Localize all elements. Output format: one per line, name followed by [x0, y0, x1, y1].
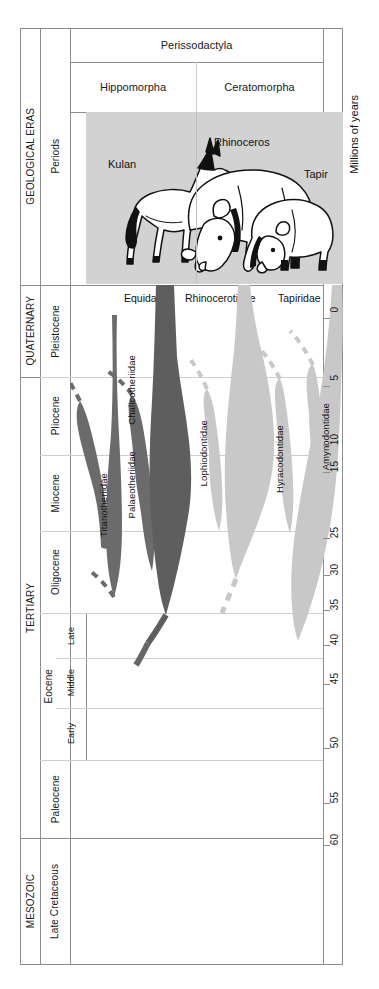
time-axis-tick-5: [323, 386, 330, 387]
time-axis-tick-45: [323, 684, 330, 685]
time-axis-label-30: 30: [330, 564, 340, 575]
time-axis-tick-40: [323, 645, 330, 646]
time-axis-label-25: 25: [330, 527, 340, 538]
era-cell-mesozoic: MESOZOIC: [20, 838, 40, 965]
spindle-equidae: [148, 285, 191, 643]
time-axis-label-35: 35: [330, 599, 340, 610]
spindle-rhinocerotidae: [222, 285, 274, 613]
time-axis-tick-55: [323, 803, 330, 804]
eras-axis-text: GEOLOGICAL ERAS: [25, 108, 36, 205]
era-cell-tertiary: TERTIARY: [20, 377, 40, 838]
perissodactyl-illustration-panel: Kulan Rhinoceros Tapir: [86, 112, 343, 284]
time-axis-tick-60: [323, 845, 330, 846]
clade-label-lophiodontidae: Lophiodontidae: [198, 420, 209, 486]
perissodactyla-phylogeny-figure: Perissodactyla Hippomorpha Ceratomorpha …: [0, 0, 379, 989]
period-cell-pleistocene: Pleistocene: [40, 285, 70, 377]
period-label-miocene: Miocene: [50, 474, 61, 513]
period-label-eocene: Eocene: [43, 669, 54, 704]
period-cell-eocene: Eocene: [40, 613, 56, 760]
clade-label-palaeotheriidae: Palaeotheriidae: [126, 451, 137, 519]
phylogeny-chart-area: Titanotheriidae Chalicotheriidae Palaeot…: [70, 285, 343, 838]
caption-kulan: Kulan: [108, 158, 136, 170]
period-cell-oligocene: Oligocene: [40, 531, 70, 613]
periods-axis-text: Periods: [50, 139, 61, 174]
time-axis-tick-15: [323, 472, 330, 473]
suborder-header-ceratomorpha: Ceratomorpha: [196, 62, 323, 112]
clade-label-chalicotheriidae: Chalicotheriidae: [126, 355, 137, 425]
period-label-late-cretaceous: Late Cretaceous: [49, 864, 61, 939]
period-cell-miocene: Miocene: [40, 455, 70, 531]
period-label-oligocene: Oligocene: [50, 549, 61, 595]
clade-label-titanotheriidae: Titanotheriidae: [98, 473, 109, 537]
period-label-paleocene: Paleocene: [50, 775, 61, 823]
period-label-pliocene: Pliocene: [50, 396, 61, 435]
time-axis-label-40: 40: [330, 634, 340, 645]
time-axis-tick-25: [323, 538, 330, 539]
period-label-pleistocene: Pleistocene: [50, 305, 61, 358]
era-cell-quaternary: QUATERNARY: [20, 285, 40, 377]
time-axis-label-5: 5: [330, 375, 340, 381]
clade-label-hyracodontidae: Hyracodontidae: [274, 425, 285, 493]
periods-axis-label: Periods: [40, 28, 70, 284]
illustration-group-divider: [196, 112, 197, 284]
era-label-mesozoic: MESOZOIC: [25, 874, 36, 928]
time-axis-tick-30: [323, 575, 330, 576]
time-axis-label-50: 50: [330, 737, 340, 748]
lineage-root-convergence: [136, 643, 148, 665]
caption-rhinoceros: Rhinoceros: [214, 136, 270, 148]
era-label-quaternary: QUATERNARY: [25, 296, 36, 366]
era-divider-quat-tert: [20, 377, 40, 378]
time-axis-tick-50: [323, 748, 330, 749]
time-axis-tick-35: [323, 610, 330, 611]
time-axis-label-60: 60: [330, 834, 340, 845]
time-axis-label-45: 45: [330, 673, 340, 684]
lineage-spindles-svg: [70, 285, 343, 838]
period-cell-pliocene: Pliocene: [40, 377, 70, 455]
time-axis-tick-0: [323, 318, 330, 319]
caption-tapir: Tapir: [304, 168, 328, 180]
time-axis-label-10: 10: [330, 434, 340, 445]
time-axis-label-55: 55: [330, 792, 340, 803]
time-axis-label-15: 15: [330, 461, 340, 472]
geological-eras-axis-label: GEOLOGICAL ERAS: [20, 28, 40, 284]
suborder-header-hippomorpha: Hippomorpha: [70, 62, 196, 112]
myr-axis-text: Millions of years: [348, 95, 360, 174]
time-axis: 0510152530354045505560: [323, 285, 343, 838]
order-header: Perissodactyla: [70, 28, 323, 62]
time-axis-label-0: 0: [330, 307, 340, 313]
period-cell-paleocene: Paleocene: [40, 760, 70, 838]
era-label-tertiary: TERTIARY: [25, 583, 36, 633]
period-cell-late-cretaceous: Late Cretaceous: [40, 838, 70, 965]
millions-of-years-axis-label: Millions of years: [348, 95, 360, 176]
time-axis-tick-10: [323, 445, 330, 446]
